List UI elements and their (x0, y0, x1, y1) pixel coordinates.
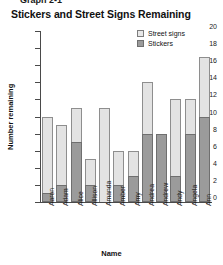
x-tick-label-amy: Amy (128, 205, 139, 247)
y-tick (35, 185, 40, 186)
graph-number: Graph 2-1 (20, 0, 62, 5)
x-tick-label-alice: Alice (71, 205, 82, 247)
x-tick-label-text: Amanda (105, 181, 112, 206)
x-tick-label-andrea: Andrea (142, 205, 153, 247)
y-tick (35, 65, 40, 66)
bar-segment-street-signs (185, 99, 196, 133)
x-tick-label-text: Andrew (162, 183, 169, 206)
x-tick-label-andy: Andy (170, 205, 181, 247)
x-tick-label-ann: Ann (199, 205, 210, 247)
bar-andy (170, 99, 181, 202)
x-tick-label-amanda: Amanda (99, 205, 110, 247)
x-axis-label: Name (0, 249, 223, 258)
bar-segment-street-signs (71, 108, 82, 142)
bar-segment-street-signs (56, 125, 67, 185)
bar-ann (199, 57, 210, 202)
x-tick-label-angela: Angela (185, 205, 196, 247)
y-tick (35, 151, 40, 152)
legend-swatch-icon (137, 30, 144, 37)
x-tick-label-text: Amber (119, 186, 126, 206)
x-tick-label-amber: Amber (113, 205, 124, 247)
x-tick-label-text: Ann (205, 194, 212, 206)
y-tick (35, 117, 40, 118)
x-tick-label-text: Andrea (148, 184, 155, 206)
legend-item-street-signs: Street signs (137, 30, 185, 37)
bar-segment-street-signs (128, 151, 139, 177)
y-tick (35, 134, 40, 135)
x-tick-label-text: Angela (191, 185, 198, 206)
bar-segment-street-signs (199, 57, 210, 117)
bar-segment-street-signs (142, 82, 153, 133)
x-tick-label-text: Aaron (48, 188, 55, 206)
y-tick (35, 31, 40, 32)
bar-segment-stickers (199, 117, 210, 203)
bar-segment-street-signs (170, 99, 181, 176)
y-tick (35, 168, 40, 169)
legend-label: Stickers (148, 40, 173, 47)
x-tick-label-text: Allison (91, 186, 98, 206)
legend-label: Street signs (148, 30, 185, 37)
x-tick-label-text: Adam (62, 188, 69, 206)
y-tick (35, 202, 40, 203)
x-tick-label-allison: Allison (85, 205, 96, 247)
legend-item-stickers: Stickers (137, 40, 185, 47)
bar-group (41, 31, 211, 202)
x-tick-label-andrew: Andrew (156, 205, 167, 247)
x-axis-tick-labels: AaronAdamAliceAllisonAmandaAmberAmyAndre… (41, 205, 211, 247)
chart-legend: Street signsStickers (137, 30, 185, 50)
y-tick (35, 82, 40, 83)
chart-figure: Graph 2-1 Stickers and Street Signs Rema… (0, 0, 223, 265)
legend-swatch-icon (137, 40, 144, 47)
y-tick (35, 48, 40, 49)
chart-title: Stickers and Street Signs Remaining (11, 8, 191, 20)
x-tick-label-text: Alice (77, 191, 84, 206)
bar-segment-street-signs (85, 159, 96, 185)
x-tick-label-adam: Adam (56, 205, 67, 247)
bar-segment-street-signs (42, 117, 53, 194)
x-tick-label-text: Amy (134, 192, 141, 206)
y-tick (35, 99, 40, 100)
bar-alice (71, 108, 82, 202)
bar-segment-street-signs (113, 151, 124, 185)
y-tick-label: 20 (201, 23, 217, 30)
x-tick-label-text: Andy (176, 191, 183, 207)
y-axis-label: Number remaining (6, 84, 15, 150)
x-tick-label-aaron: Aaron (42, 205, 53, 247)
